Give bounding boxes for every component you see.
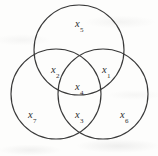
label-subscript: 3: [80, 117, 84, 125]
label-subscript: 7: [33, 117, 37, 125]
label-subscript: 6: [125, 117, 129, 125]
venn-diagram-figure: x5x2x1x4x3x7x6: [0, 0, 158, 156]
label-variable: x: [51, 64, 56, 75]
label-subscript: 2: [56, 72, 60, 80]
label-variable: x: [75, 109, 80, 120]
region-label-x3: x3: [75, 109, 83, 120]
label-variable: x: [120, 109, 125, 120]
label-variable: x: [75, 18, 80, 29]
label-subscript: 4: [80, 89, 84, 97]
region-label-x4: x4: [75, 81, 83, 92]
label-variable: x: [28, 109, 33, 120]
region-label-x1: x1: [102, 64, 110, 75]
region-label-x6: x6: [120, 109, 128, 120]
region-label-x5: x5: [75, 18, 83, 29]
region-label-x7: x7: [28, 109, 36, 120]
region-label-x2: x2: [51, 64, 59, 75]
label-subscript: 1: [107, 72, 111, 80]
label-variable: x: [75, 81, 80, 92]
label-subscript: 5: [80, 26, 84, 34]
label-variable: x: [102, 64, 107, 75]
